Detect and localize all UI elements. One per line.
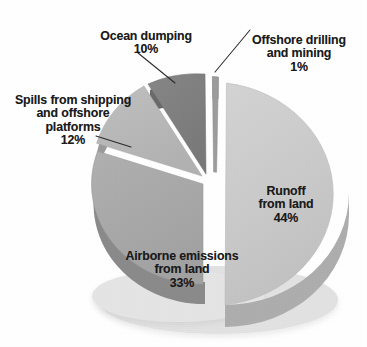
slice-label-runoff-name: Runoff from land — [258, 184, 313, 212]
slice-label-spills-percent: 12% — [2, 134, 144, 148]
slice-label-runoff-percent: 44% — [238, 212, 334, 226]
slice-label-spills-name: Spills from shipping and offshore platfo… — [15, 93, 131, 134]
slice-label-offshore-drilling: Offshore drilling and mining 1% — [238, 20, 360, 88]
slice-top-offshore-drilling — [212, 77, 218, 173]
slice-label-airborne-percent: 33% — [114, 277, 250, 291]
slice-label-ocean-dumping-percent: 10% — [80, 43, 212, 57]
slice-group-offshore-drilling — [212, 77, 218, 173]
slice-label-runoff: Runoff from land 44% — [238, 171, 334, 239]
slice-label-spills: Spills from shipping and offshore platfo… — [2, 80, 144, 162]
slice-label-airborne-name: Airborne emissions from land — [126, 249, 239, 277]
pie-chart: Ocean dumping 10% Offshore drilling and … — [0, 0, 367, 347]
slice-label-ocean-dumping-name: Ocean dumping — [100, 29, 192, 43]
slice-label-ocean-dumping: Ocean dumping 10% — [80, 16, 212, 70]
slice-label-offshore-drilling-percent: 1% — [238, 61, 360, 75]
slice-label-offshore-drilling-name: Offshore drilling and mining — [252, 33, 346, 61]
slice-label-airborne: Airborne emissions from land 33% — [114, 236, 250, 304]
